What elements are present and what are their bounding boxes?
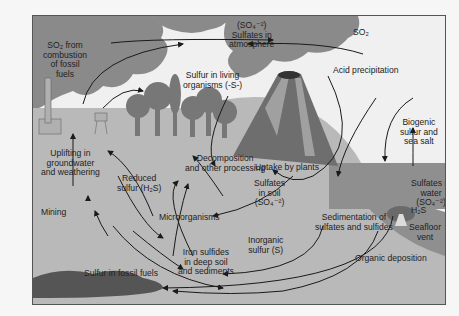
label-mining: Mining	[41, 208, 66, 218]
label-uplifting: Uplifting in groundwater and weathering	[41, 149, 100, 178]
label-uptake-plants: Uptake by plants	[255, 163, 319, 173]
label-so2-combustion: SO₂ from combustion of fossil fuels	[43, 41, 87, 79]
label-sulfates-water: Sulfates in water (SO₄⁻²)	[411, 179, 446, 208]
label-acid-precipitation: Acid precipitation	[333, 66, 398, 76]
label-iron-sulfides: Iron sulfides in deep soil and sediments	[178, 248, 234, 277]
label-decomposition: Decomposition and other processing	[185, 154, 265, 173]
label-reduced-sulfur: Reduced sulfur (H₂S)	[117, 174, 161, 193]
sulfur-cycle-diagram: SO₂ from combustion of fossil fuels (SO₄…	[32, 15, 446, 305]
label-sulfur-fossil-fuels: Sulfur in fossil fuels	[84, 269, 158, 279]
label-living-organisms: Sulfur in living organisms (-S-)	[183, 71, 242, 90]
label-sedimentation: Sedimentation of sulfates and sulfides	[315, 213, 393, 232]
label-inorganic-sulfur: Inorganic sulfur (S)	[248, 236, 283, 255]
label-sulfates-soil: Sulfates in soil (SO₄⁻²)	[254, 179, 285, 208]
label-h2s: H₂S	[411, 206, 426, 216]
label-biogenic-sulfur: Biogenic sulfur and sea salt	[400, 118, 438, 147]
label-so2: SO₂	[353, 28, 369, 38]
label-microorganisms: Microorganisms	[159, 213, 220, 223]
label-organic-deposition: Organic deposition	[355, 254, 427, 264]
label-seafloor-vent: Seafloor vent	[409, 223, 441, 242]
label-sulfates-atmosphere: (SO₄⁻²) Sulfates in atmosphere	[229, 21, 274, 50]
